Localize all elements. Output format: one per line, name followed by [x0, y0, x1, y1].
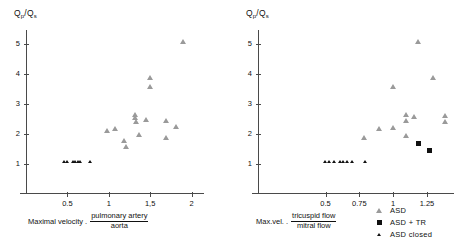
data-point-asd — [104, 128, 110, 133]
data-point-asd — [136, 132, 142, 137]
data-point-asd-tr — [427, 148, 432, 153]
y-tick-label: 2 — [0, 129, 20, 138]
x-caption-lead-right: Max.vel. . — [256, 217, 291, 226]
y-tick-label: 4 — [232, 69, 252, 78]
y-tick — [24, 164, 29, 165]
y-tick-label: 1 — [232, 159, 252, 168]
data-point-asd — [390, 125, 396, 130]
y-tick — [256, 44, 261, 45]
x-tick — [326, 192, 327, 197]
legend: ASD ASD + TR ASD closed — [371, 204, 432, 240]
y-tick-label: 1 — [0, 159, 20, 168]
x-tick — [393, 192, 394, 197]
chart-panel-right: Qp/Qs 123450.50.7511.25 Max.vel. . tricu… — [232, 0, 465, 246]
data-point-asd — [147, 75, 153, 80]
chart-panel-left: Qp/Qs 123450.511,52 Maximal velocity . p… — [0, 0, 232, 246]
data-point-asd — [173, 124, 179, 129]
y-axis-line-right — [258, 30, 259, 194]
open-triangle-icon — [371, 208, 387, 213]
x-caption-fraction-right: tricuspid flow mitral flow — [291, 212, 336, 231]
x-axis-line-left — [20, 193, 204, 194]
small-filled-triangle-icon — [371, 233, 387, 236]
y-axis-title-left: Qp/Qs — [14, 8, 37, 18]
x-tick-label: 0.5 — [52, 199, 82, 208]
x-tick — [67, 192, 68, 197]
x-tick-label: 2 — [177, 199, 207, 208]
x-tick-label: 1 — [94, 199, 124, 208]
data-point-asd — [112, 126, 118, 131]
y-tick-label: 5 — [232, 39, 252, 48]
legend-item-asd: ASD — [371, 204, 432, 216]
figure-scatter-pair: Qp/Qs 123450.511,52 Maximal velocity . p… — [0, 0, 465, 246]
x-axis-caption-right: Max.vel. . tricuspid flow mitral flow — [256, 212, 336, 231]
data-point-asd — [442, 119, 448, 124]
plot-area-left: 123450.511,52 — [26, 30, 204, 194]
legend-label-asd-tr: ASD + TR — [387, 218, 426, 227]
x-axis-caption-left: Maximal velocity . pulmonary artery aort… — [28, 212, 148, 231]
data-point-asd-closed — [78, 160, 82, 163]
data-point-asd-closed — [350, 160, 354, 163]
legend-item-asd-tr: ASD + TR — [371, 216, 432, 228]
y-tick-label: 2 — [232, 129, 252, 138]
x-caption-denominator-left: aorta — [90, 222, 148, 231]
data-point-asd — [403, 112, 409, 117]
y-tick — [256, 74, 261, 75]
y-tick — [24, 74, 29, 75]
data-point-asd-closed — [363, 160, 367, 163]
x-tick-label: 1,5 — [135, 199, 165, 208]
data-point-asd — [376, 126, 382, 131]
data-point-asd — [415, 39, 421, 44]
data-point-asd — [180, 39, 186, 44]
data-point-asd — [163, 135, 169, 140]
data-point-asd — [123, 144, 129, 149]
data-point-asd — [143, 117, 149, 122]
data-point-asd — [121, 138, 127, 143]
legend-label-asd: ASD — [387, 206, 406, 215]
data-point-asd — [133, 119, 139, 124]
data-point-asd-closed — [332, 160, 336, 163]
x-tick-label: 0.75 — [344, 199, 374, 208]
y-tick-label: 4 — [0, 69, 20, 78]
y-axis-line-left — [26, 30, 27, 194]
x-tick — [109, 192, 110, 197]
data-point-asd — [403, 133, 409, 138]
x-tick — [359, 192, 360, 197]
data-point-asd — [442, 113, 448, 118]
data-point-asd-tr — [416, 141, 421, 146]
plot-area-right: 123450.50.7511.25 — [258, 30, 454, 194]
data-point-asd — [147, 84, 153, 89]
y-tick-label: 5 — [0, 39, 20, 48]
y-tick — [24, 134, 29, 135]
y-axis-title-right: Qp/Qs — [246, 8, 269, 18]
x-axis-line-right — [252, 193, 454, 194]
y-tick — [24, 104, 29, 105]
data-point-asd-closed — [345, 160, 349, 163]
y-tick-label: 3 — [0, 99, 20, 108]
y-tick — [256, 164, 261, 165]
y-tick — [256, 104, 261, 105]
y-tick — [24, 44, 29, 45]
data-point-asd — [430, 75, 436, 80]
x-caption-denominator-right: mitral flow — [291, 222, 336, 231]
data-point-asd-closed — [65, 160, 69, 163]
data-point-asd — [390, 84, 396, 89]
legend-item-asd-closed: ASD closed — [371, 228, 432, 240]
data-point-asd-closed — [88, 160, 92, 163]
legend-label-asd-closed: ASD closed — [387, 230, 432, 239]
data-point-asd — [163, 118, 169, 123]
x-tick — [150, 192, 151, 197]
x-caption-fraction-left: pulmonary artery aorta — [90, 212, 148, 231]
data-point-asd — [361, 135, 367, 140]
data-point-asd — [403, 118, 409, 123]
filled-square-icon — [371, 220, 387, 225]
x-caption-lead-left: Maximal velocity . — [28, 217, 90, 226]
y-tick — [256, 134, 261, 135]
x-tick-label: 0.5 — [311, 199, 341, 208]
x-tick — [427, 192, 428, 197]
data-point-asd — [411, 114, 417, 119]
y-tick-label: 3 — [232, 99, 252, 108]
x-tick — [192, 192, 193, 197]
